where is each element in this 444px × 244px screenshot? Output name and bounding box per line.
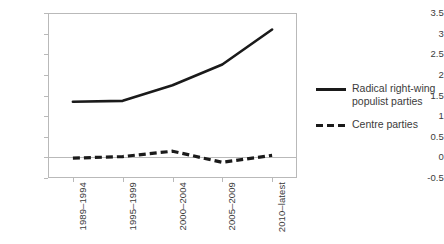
series-line-1 bbox=[73, 30, 272, 102]
chart-container: 3.532.521.510.50-0.5 1989–19941995–19992… bbox=[0, 0, 444, 244]
series-line-2 bbox=[73, 151, 272, 162]
legend-item-label: Radical right-wingpopulist parties bbox=[352, 82, 440, 107]
x-axis-tick-mark bbox=[73, 178, 74, 182]
x-axis-tick-mark bbox=[123, 178, 124, 182]
solid-line-icon bbox=[316, 88, 346, 91]
x-axis-tick-label: 1995–1999 bbox=[128, 182, 138, 230]
legend-item[interactable]: Radical right-wingpopulist parties bbox=[316, 82, 440, 107]
y-axis-tick-label: -0.5 bbox=[400, 173, 444, 183]
y-axis-tick-label: 0 bbox=[400, 152, 444, 162]
x-axis-tick-label: 2010–latest bbox=[277, 182, 287, 232]
x-axis-tick-mark bbox=[272, 178, 273, 182]
y-axis-tick-label: 2.5 bbox=[400, 49, 444, 59]
y-axis-tick-label: 2 bbox=[400, 70, 444, 80]
legend-item[interactable]: Centre parties bbox=[316, 118, 440, 132]
x-axis-tick-label: 1989–1994 bbox=[78, 182, 88, 230]
x-axis-tick-mark bbox=[222, 178, 223, 182]
x-axis-tick-mark bbox=[173, 178, 174, 182]
chart-legend: Radical right-wingpopulist partiesCentre… bbox=[316, 82, 440, 143]
legend-item-label: Centre parties bbox=[352, 118, 440, 131]
y-axis-tick-label: 3 bbox=[400, 29, 444, 39]
y-axis-tick-label: 3.5 bbox=[400, 8, 444, 18]
x-axis-tick-label: 2000–2004 bbox=[178, 182, 188, 230]
dashed-line-icon bbox=[316, 124, 346, 127]
y-axis-tick-mark bbox=[44, 178, 48, 179]
x-axis-tick-label: 2005–2009 bbox=[227, 182, 237, 230]
data-series-layer bbox=[48, 13, 297, 178]
